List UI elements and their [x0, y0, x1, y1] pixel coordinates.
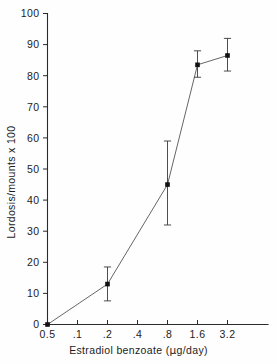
x-tick-label-.2: .2	[103, 328, 113, 340]
y-axis-tick-labels: 0102030405060708090100	[21, 7, 40, 330]
data-point-0.5	[45, 322, 50, 327]
y-tick-label-90: 90	[27, 38, 39, 50]
chart-figure: Lordosis/mounts x 100 010203040506070809…	[0, 0, 277, 364]
error-bars	[104, 38, 231, 300]
micro-symbol: µ	[170, 344, 177, 356]
series-polyline	[48, 55, 228, 324]
series-line	[48, 55, 228, 324]
x-axis-title: Estradiol benzoate (µg/day)	[0, 344, 277, 356]
x-axis-ticks	[78, 320, 228, 325]
x-axis-title-prefix: Estradiol benzoate (	[69, 344, 169, 356]
data-point-markers	[45, 53, 230, 327]
x-tick-label-3.2: 3.2	[220, 328, 236, 340]
plot-area: 0102030405060708090100 0.5.1.2.4.81.63.2	[0, 0, 277, 364]
y-tick-label-60: 60	[27, 132, 39, 144]
x-tick-label-1.6: 1.6	[190, 328, 206, 340]
data-point-.8	[165, 182, 170, 187]
y-tick-label-0: 0	[33, 318, 39, 330]
x-axis-title-suffix: g/day)	[177, 344, 208, 356]
x-tick-label-.4: .4	[133, 328, 143, 340]
y-tick-label-50: 50	[27, 163, 39, 175]
y-tick-label-30: 30	[27, 225, 39, 237]
x-tick-label-.1: .1	[73, 328, 83, 340]
data-point-1.6	[195, 63, 200, 68]
data-point-.2	[105, 282, 110, 287]
x-tick-label-.8: .8	[163, 328, 173, 340]
y-tick-label-70: 70	[27, 101, 39, 113]
y-tick-label-80: 80	[27, 70, 39, 82]
y-tick-label-40: 40	[27, 194, 39, 206]
x-tick-label-0.5: 0.5	[40, 328, 56, 340]
y-tick-label-10: 10	[27, 287, 39, 299]
y-tick-label-100: 100	[21, 7, 40, 19]
x-axis-tick-labels: 0.5.1.2.4.81.63.2	[40, 328, 236, 340]
y-axis-ticks	[43, 14, 48, 325]
data-point-3.2	[225, 53, 230, 58]
y-tick-label-20: 20	[27, 256, 39, 268]
